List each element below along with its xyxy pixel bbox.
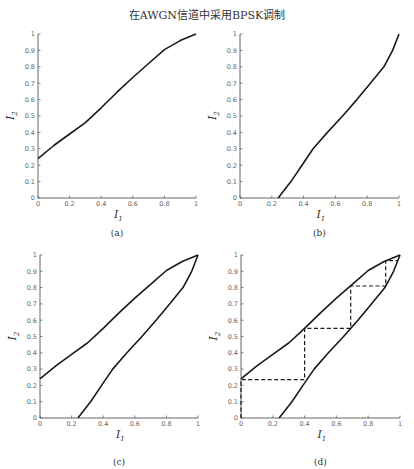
y-tick-label: 0.1 <box>27 398 37 406</box>
x-tick-label: 0.8 <box>161 420 171 428</box>
y-tick-label: 0.7 <box>227 80 237 88</box>
y-tick-label: 0 <box>31 194 35 202</box>
x-tick-label: 1 <box>398 420 402 428</box>
y-tick-label: 0.1 <box>25 178 35 186</box>
y-tick-label: 0.3 <box>27 365 37 373</box>
y-tick-label: 0.5 <box>27 333 37 341</box>
x-tick-label: 1 <box>196 420 200 428</box>
y-tick-label: 0.9 <box>25 47 35 55</box>
chart-panel-d: 00.20.40.60.8100.10.20.30.40.50.60.70.80… <box>207 251 402 467</box>
transfer-curve <box>78 255 198 418</box>
x-tick-label: 0.8 <box>159 200 169 208</box>
y-tick-label: 0.6 <box>227 96 237 104</box>
y-tick-label: 0.8 <box>227 63 237 71</box>
x-tick-label: 0.4 <box>299 420 309 428</box>
y-tick-label: 0.7 <box>25 80 35 88</box>
y-tick-label: 0.3 <box>25 145 35 153</box>
x-tick-label: 0.4 <box>98 420 108 428</box>
y-tick-label: 1 <box>33 251 37 259</box>
x-tick-label: 0.2 <box>267 200 277 208</box>
y-tick-label: 0.8 <box>228 284 238 292</box>
x-tick-label: 0.6 <box>331 420 341 428</box>
y-tick-label: 0.4 <box>27 349 37 357</box>
y-tick-label: 0.1 <box>227 178 237 186</box>
y-tick-label: 0.3 <box>228 365 238 373</box>
chart-panel-a: 00.20.40.60.8100.10.20.30.40.50.60.70.80… <box>4 30 198 238</box>
axes: 00.20.40.60.8100.10.20.30.40.50.60.70.80… <box>27 251 200 428</box>
trajectory-line <box>241 261 398 418</box>
figure-canvas: 00.20.40.60.8100.10.20.30.40.50.60.70.80… <box>0 0 414 469</box>
y-tick-label: 0.6 <box>25 96 35 104</box>
y-tick-label: 0.6 <box>27 317 37 325</box>
axes: 00.20.40.60.8100.10.20.30.40.50.60.70.80… <box>25 30 198 208</box>
y-tick-label: 0.9 <box>228 268 238 276</box>
x-tick-label: 0.6 <box>330 200 340 208</box>
y-tick-label: 0.3 <box>227 145 237 153</box>
x-tick-label: 0.2 <box>66 420 76 428</box>
y-tick-label: 0.5 <box>227 112 237 120</box>
y-axis-label: I2 <box>4 111 19 121</box>
x-tick-label: 0.2 <box>64 200 74 208</box>
y-tick-label: 0.2 <box>228 382 238 390</box>
axes: 00.20.40.60.8100.10.20.30.40.50.60.70.80… <box>228 251 402 428</box>
y-tick-label: 1 <box>233 30 237 38</box>
y-tick-label: 0.4 <box>25 129 35 137</box>
x-tick-label: 0 <box>239 420 243 428</box>
x-axis-label: I1 <box>317 428 327 443</box>
panel-caption: (a) <box>111 228 123 238</box>
x-axis-label: I1 <box>115 428 125 443</box>
panel-caption: (b) <box>313 228 326 238</box>
x-tick-label: 0.8 <box>363 420 373 428</box>
x-tick-label: 0.6 <box>128 200 138 208</box>
x-tick-label: 0.8 <box>362 200 372 208</box>
y-tick-label: 0.2 <box>227 162 237 170</box>
x-tick-label: 0 <box>36 200 40 208</box>
y-tick-label: 0.7 <box>228 300 238 308</box>
y-tick-label: 0 <box>33 414 37 422</box>
y-tick-label: 0.6 <box>228 317 238 325</box>
y-tick-label: 0.5 <box>228 333 238 341</box>
x-tick-label: 0.2 <box>268 420 278 428</box>
transfer-curve <box>279 255 400 418</box>
x-axis-label: I1 <box>316 208 326 223</box>
transfer-curve <box>38 34 196 159</box>
x-tick-label: 0 <box>38 420 42 428</box>
x-tick-label: 0.6 <box>130 420 140 428</box>
y-tick-label: 0 <box>233 194 237 202</box>
chart-panel-b: 00.20.40.60.8100.10.20.30.40.50.60.70.80… <box>206 30 401 238</box>
y-tick-label: 0.8 <box>27 284 37 292</box>
axes: 00.20.40.60.8100.10.20.30.40.50.60.70.80… <box>227 30 401 208</box>
x-tick-label: 1 <box>397 200 401 208</box>
y-tick-label: 0.2 <box>25 162 35 170</box>
y-tick-label: 0 <box>234 414 238 422</box>
x-tick-label: 1 <box>194 200 198 208</box>
panel-caption: (c) <box>113 457 125 467</box>
y-tick-label: 0.4 <box>227 129 237 137</box>
y-tick-label: 0.8 <box>25 63 35 71</box>
y-tick-label: 0.5 <box>25 112 35 120</box>
y-tick-label: 0.7 <box>27 300 37 308</box>
y-tick-label: 0.1 <box>228 398 238 406</box>
y-tick-label: 1 <box>31 30 35 38</box>
transfer-curve <box>241 255 400 379</box>
y-axis-label: I2 <box>206 111 221 121</box>
x-tick-label: 0 <box>238 200 242 208</box>
y-axis-label: I2 <box>6 331 21 341</box>
y-tick-label: 0.9 <box>227 47 237 55</box>
transfer-curve <box>278 34 399 198</box>
y-tick-label: 0.4 <box>228 349 238 357</box>
transfer-curve <box>40 255 198 379</box>
x-axis-label: I1 <box>113 208 123 223</box>
y-tick-label: 1 <box>234 251 238 259</box>
x-tick-label: 0.4 <box>96 200 106 208</box>
panel-caption: (d) <box>314 457 327 467</box>
y-tick-label: 0.2 <box>27 382 37 390</box>
chart-panel-c: 00.20.40.60.8100.10.20.30.40.50.60.70.80… <box>6 251 200 467</box>
y-tick-label: 0.9 <box>27 268 37 276</box>
y-axis-label: I2 <box>207 331 222 341</box>
x-tick-label: 0.4 <box>298 200 308 208</box>
